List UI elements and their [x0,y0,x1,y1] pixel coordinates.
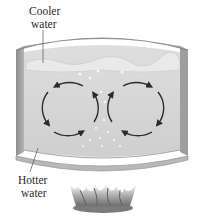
pot-right-wall [180,46,188,156]
hotter-water-label-line2: water [21,187,47,199]
cooler-water-label-line1: Cooler [29,5,60,17]
hotter-water-label-line1: Hotter [18,174,47,186]
pot-left-wall [16,46,24,156]
flame-icon [70,184,136,213]
convection-diagram: Cooler water Hotter water [0,0,204,221]
cooler-water-label-line2: water [31,18,57,30]
